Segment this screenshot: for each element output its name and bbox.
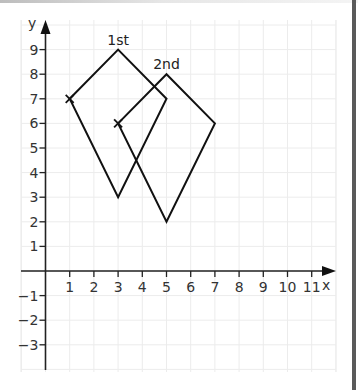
y-tick-label: 5: [30, 140, 39, 156]
x-axis-label: x: [322, 277, 330, 293]
axes: [21, 20, 336, 370]
y-tick-label: −1: [18, 288, 39, 304]
x-tick-label: 4: [138, 279, 147, 295]
x-tick-label: 5: [162, 279, 171, 295]
x-tick-label: 8: [235, 279, 244, 295]
x-tick-label: 10: [279, 279, 297, 295]
x-tick-label: 1: [65, 279, 74, 295]
y-tick-label: 3: [30, 189, 39, 205]
right-border: [352, 0, 356, 390]
x-tick-label: 7: [210, 279, 219, 295]
y-tick-label: 6: [30, 115, 39, 131]
x-tick-label: 9: [259, 279, 268, 295]
x-tick-label: 3: [114, 279, 123, 295]
y-axis-arrow-icon: [41, 20, 51, 34]
y-tick-label: 1: [30, 238, 39, 254]
y-tick-label: 7: [30, 91, 39, 107]
x-axis-arrow-icon: [322, 266, 336, 276]
y-tick-label: −2: [18, 312, 39, 328]
y-tick-label: 4: [30, 165, 39, 181]
shapes: 1st2nd: [66, 32, 215, 222]
coordinate-plane: 1234567891011987654321−1−2−3 1st2nd y x: [0, 0, 358, 390]
y-tick-label: 2: [30, 214, 39, 230]
y-tick-label: 9: [30, 42, 39, 58]
y-tick-label: 8: [30, 66, 39, 82]
y-axis-label: y: [28, 15, 36, 31]
x-tick-label: 2: [89, 279, 98, 295]
x-tick-label: 11: [303, 279, 321, 295]
shape-label: 2nd: [153, 56, 180, 72]
shape-label: 1st: [107, 32, 129, 48]
y-tick-label: −3: [18, 337, 39, 353]
x-tick-label: 6: [186, 279, 195, 295]
